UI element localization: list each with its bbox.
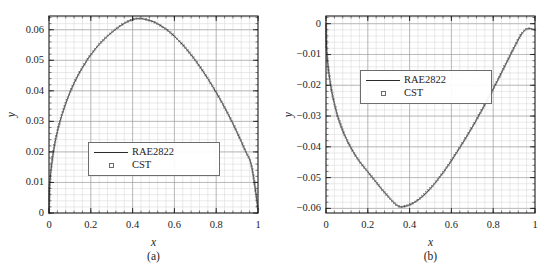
legend-a: RAE2822 CST (88, 142, 220, 176)
x-tick-label: 0.4 (126, 220, 139, 231)
legend-item-rae2822-b: RAE2822 (364, 74, 486, 87)
panel-subcaption-b: (b) (295, 251, 543, 263)
y-axis-title-a: y (6, 107, 18, 121)
y-axis-title-b: y (283, 107, 295, 121)
x-axis-title-b: x (424, 237, 438, 249)
x-tick-label: 0.6 (168, 220, 181, 231)
x-tick-label: 1 (532, 220, 537, 231)
x-tick-label: 0.2 (84, 220, 97, 231)
y-tick-label: 0 (39, 208, 44, 219)
figure-container: 00.010.020.030.040.050.06 00.20.40.60.81… (0, 0, 543, 266)
legend-label-rae2822: RAE2822 (130, 147, 174, 158)
chart-panel-b: 0−0.01−0.02−0.03−0.04−0.05−0.06 00.20.40… (271, 0, 543, 266)
x-tick-label: 0 (323, 220, 328, 231)
x-tick-label: 1 (255, 220, 260, 231)
y-tick-label: 0.06 (26, 24, 44, 35)
y-tick-label: 0.04 (26, 86, 44, 97)
x-tick-label: 0.4 (403, 220, 416, 231)
y-tick-label: −0.03 (297, 111, 321, 122)
y-tick-label: 0.01 (26, 177, 44, 188)
y-tick-label: −0.06 (297, 203, 321, 214)
legend-item-cst-a: CST (92, 159, 214, 172)
x-tick-label: 0.8 (487, 220, 500, 231)
x-axis-title-a: x (147, 237, 161, 249)
legend-item-rae2822-a: RAE2822 (92, 146, 214, 159)
legend-line-icon (92, 152, 130, 153)
y-tick-label: 0.03 (26, 116, 44, 127)
y-tick-label: −0.01 (297, 49, 321, 60)
y-tick-label: −0.04 (297, 142, 321, 153)
y-tick-label: 0 (316, 18, 321, 29)
x-tick-label: 0.8 (210, 220, 223, 231)
legend-line-icon (364, 80, 402, 81)
y-tick-label: −0.05 (297, 172, 321, 183)
legend-b: RAE2822 CST (360, 70, 492, 104)
legend-label-cst: CST (130, 160, 151, 171)
x-tick-label: 0.6 (445, 220, 458, 231)
x-tick-label: 0 (46, 220, 51, 231)
legend-square-marker-icon (364, 91, 402, 96)
y-tick-label: −0.02 (297, 80, 321, 91)
y-tick-label: 0.05 (26, 55, 44, 66)
legend-label-rae2822: RAE2822 (402, 75, 446, 86)
legend-square-marker-icon (92, 163, 130, 168)
legend-item-cst-b: CST (364, 87, 486, 100)
legend-label-cst: CST (402, 88, 423, 99)
y-tick-label: 0.02 (26, 147, 44, 158)
chart-panel-a: 00.010.020.030.040.050.06 00.20.40.60.81… (0, 0, 272, 266)
panel-subcaption-a: (a) (18, 251, 290, 263)
x-tick-label: 0.2 (361, 220, 374, 231)
